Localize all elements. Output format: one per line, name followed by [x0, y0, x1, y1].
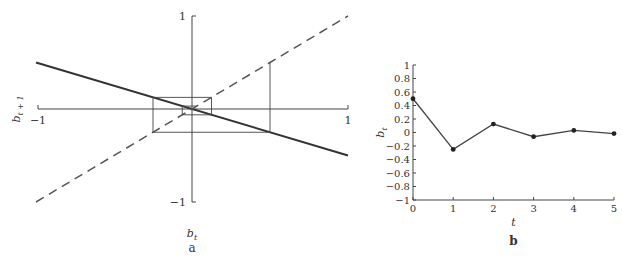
b-data-point	[531, 134, 536, 139]
b-y-tick-label: 0.2	[394, 114, 410, 125]
a-x-axis-label: bt	[187, 227, 198, 242]
a-x-tick-label: −1	[30, 114, 46, 127]
b-series-line	[413, 99, 614, 150]
b-y-tick-label: −0.8	[386, 181, 410, 192]
b-y-tick-label: 1	[404, 60, 410, 71]
b-x-tick-label: 4	[571, 203, 577, 214]
a-y-tick-label: 1	[179, 10, 186, 23]
b-y-tick-label: 0.6	[394, 87, 410, 98]
b-y-tick-label: −0.2	[386, 141, 410, 152]
b-panel-label: b	[509, 234, 517, 248]
a-x-axis-label-text: bt	[187, 227, 198, 242]
a-panel-label: a	[188, 241, 195, 255]
b-x-tick-label: 1	[450, 203, 456, 214]
b-y-axis-label-text: bt	[374, 127, 389, 138]
a-y-axis-label-text: bt + 1	[10, 95, 25, 122]
b-x-axis-label: t	[511, 216, 516, 229]
b-x-tick-label: 2	[490, 203, 496, 214]
b-x-tick-label: 0	[410, 203, 416, 214]
b-y-axis-label: bt	[374, 127, 389, 138]
b-data-point	[491, 122, 496, 127]
b-y-tick-label: −1	[395, 195, 410, 206]
a-x-tick-label: 1	[345, 114, 352, 127]
b-y-tick-label: 0.4	[394, 100, 410, 111]
a-y-axis-label: bt + 1	[10, 95, 25, 122]
b-x-tick-label: 5	[611, 203, 617, 214]
b-y-tick-label: −0.4	[386, 154, 410, 165]
figure: −111−1btbt + 1a10.80.60.40.20−0.2−0.4−0.…	[0, 0, 622, 256]
b-data-point	[451, 147, 456, 152]
b-data-point	[571, 128, 576, 133]
a-y-tick-label: −1	[170, 196, 186, 209]
b-data-point	[411, 96, 416, 101]
b-y-tick-label: −0.6	[386, 168, 410, 179]
b-y-tick-label: 0	[404, 127, 410, 138]
b-x-tick-label: 3	[530, 203, 536, 214]
b-y-tick-label: 0.8	[394, 73, 410, 84]
b-data-point	[612, 131, 617, 136]
